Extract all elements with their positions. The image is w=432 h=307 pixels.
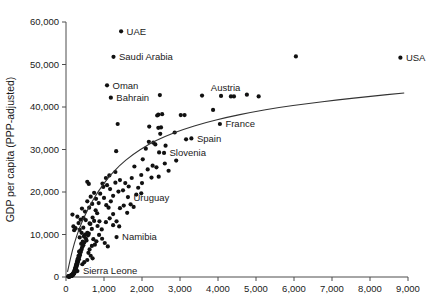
- data-point: [141, 157, 145, 161]
- data-point: [200, 93, 204, 97]
- data-point: [130, 176, 134, 180]
- data-point: [80, 206, 84, 210]
- y-tick-label: 50,000: [30, 59, 59, 70]
- data-point: [97, 219, 101, 223]
- data-point: [91, 215, 95, 219]
- data-point: [163, 161, 167, 165]
- data-point: [147, 124, 151, 128]
- annotation-label: Namibia: [122, 231, 158, 242]
- data-point: [189, 136, 193, 140]
- data-point: [121, 188, 125, 192]
- data-point: [100, 227, 104, 231]
- x-tick-label: 8,000: [358, 283, 382, 294]
- data-point: [66, 274, 70, 278]
- data-point: [91, 256, 95, 260]
- data-point: [81, 226, 85, 230]
- data-point: [232, 94, 236, 98]
- y-axis-title-text: GDP per capita (PPP-adjusted): [4, 77, 16, 223]
- data-point: [97, 201, 101, 205]
- data-point: [163, 144, 167, 148]
- x-tick-label: 9,000: [396, 283, 420, 294]
- data-point: [398, 56, 402, 60]
- data-point: [245, 93, 249, 97]
- data-point: [136, 186, 140, 190]
- x-tick-label: 0: [63, 283, 68, 294]
- data-point: [109, 199, 113, 203]
- data-point: [77, 249, 81, 253]
- x-tick-label: 3,000: [168, 283, 192, 294]
- data-points: [66, 29, 402, 278]
- y-tick-label: 20,000: [30, 186, 59, 197]
- data-point: [118, 178, 122, 182]
- data-point: [111, 55, 115, 59]
- data-point: [79, 231, 83, 235]
- data-point: [132, 164, 136, 168]
- data-point: [109, 96, 113, 100]
- data-point: [70, 212, 74, 216]
- data-point: [113, 181, 117, 185]
- y-tick-label: 30,000: [30, 144, 59, 155]
- data-point: [140, 181, 144, 185]
- x-tick-label: 6,000: [282, 283, 306, 294]
- data-point: [114, 219, 118, 223]
- data-point: [149, 175, 153, 179]
- plot-canvas: 010,00020,00030,00040,00050,00060,000 01…: [0, 0, 432, 307]
- data-point: [123, 181, 127, 185]
- data-point: [162, 151, 166, 155]
- data-point: [104, 203, 108, 207]
- annotation-label: Slovenia: [170, 147, 207, 158]
- data-point: [116, 189, 120, 193]
- data-point: [114, 235, 118, 239]
- data-point: [126, 195, 130, 199]
- data-point: [117, 224, 121, 228]
- data-point: [95, 224, 99, 228]
- data-point: [108, 216, 112, 220]
- data-point: [105, 83, 109, 87]
- data-point: [154, 165, 158, 169]
- data-point: [97, 233, 101, 237]
- data-point: [94, 208, 98, 212]
- data-point: [78, 235, 82, 239]
- annotation-label: Uruguay: [133, 192, 169, 203]
- data-point: [90, 244, 94, 248]
- annotation-label: Sierra Leone: [83, 265, 137, 276]
- y-axis: 010,00020,00030,00040,00050,00060,000: [30, 16, 66, 282]
- data-point: [167, 169, 171, 173]
- x-tick-label: 4,000: [206, 283, 230, 294]
- x-axis: 01,0002,0003,0004,0005,0006,0007,0008,00…: [63, 277, 420, 294]
- x-tick-label: 2,000: [130, 283, 154, 294]
- annotation-label: Saudi Arabia: [119, 51, 174, 62]
- data-point: [106, 244, 110, 248]
- annotation-label: Spain: [197, 133, 221, 144]
- data-point: [89, 195, 93, 199]
- y-axis-title: GDP per capita (PPP-adjusted): [4, 77, 16, 223]
- annotation-label: Bahrain: [116, 92, 149, 103]
- data-point: [160, 112, 164, 116]
- x-tick-label: 7,000: [320, 283, 344, 294]
- data-point: [157, 150, 161, 154]
- data-point: [108, 187, 112, 191]
- annotation-label: Austria: [211, 82, 241, 93]
- data-point: [84, 218, 88, 222]
- data-point: [114, 149, 118, 153]
- data-point: [122, 204, 126, 208]
- data-point: [158, 93, 162, 97]
- data-point: [119, 29, 123, 33]
- y-tick-label: 60,000: [30, 16, 59, 27]
- data-point: [127, 184, 131, 188]
- annotation-label: France: [225, 118, 255, 129]
- y-tick-label: 10,000: [30, 229, 59, 240]
- data-point: [73, 226, 77, 230]
- data-point: [111, 223, 115, 227]
- x-tick-label: 1,000: [92, 283, 116, 294]
- data-point: [155, 113, 159, 117]
- data-point: [182, 113, 186, 117]
- scatter-chart: 010,00020,00030,00040,00050,00060,000 01…: [0, 0, 432, 307]
- data-point: [118, 206, 122, 210]
- annotation-label: Oman: [113, 80, 139, 91]
- annotation-label: USA: [406, 52, 426, 63]
- data-point: [105, 183, 109, 187]
- data-point: [116, 122, 120, 126]
- data-point: [87, 221, 91, 225]
- data-point: [294, 54, 298, 58]
